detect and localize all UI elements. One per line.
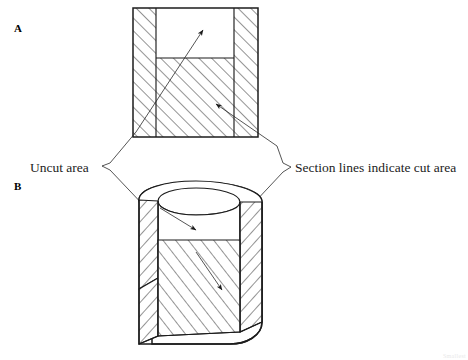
uncut-area-callout-label: Uncut area [30, 160, 89, 175]
figure-a-group [133, 8, 277, 146]
cut-area-callout-label: Section lines indicate cut area [295, 160, 456, 175]
figure-b-right-cut-wall-hatch [240, 202, 262, 332]
figure-b-left-cut-wall-lower-hatch [139, 278, 158, 344]
figure-a-left-wall-hatch [133, 8, 156, 137]
leader-uncut-to-figure-a [110, 132, 136, 163]
callout-bracket-group [102, 163, 291, 172]
figure-a-label: A [14, 22, 22, 34]
figure-a-right-wall-hatch [234, 8, 258, 137]
figure-a-uncut-cavity [156, 8, 234, 58]
uncut-callout-bracket [102, 163, 110, 170]
engineering-section-diagram: A B Uncut area Section lines indicate cu… [0, 0, 468, 360]
corner-watermark-note: Smallest [443, 353, 466, 359]
cut-callout-bracket [283, 163, 291, 172]
figure-a-floor-hatch [156, 58, 234, 137]
figure-b-floor-cut-face-hatch [158, 240, 240, 336]
figure-b-label: B [14, 180, 22, 192]
leader-cut-to-figure-a [277, 146, 283, 163]
figure-b-left-cut-wall-hatch [139, 200, 158, 289]
figure-b-group [139, 181, 262, 344]
